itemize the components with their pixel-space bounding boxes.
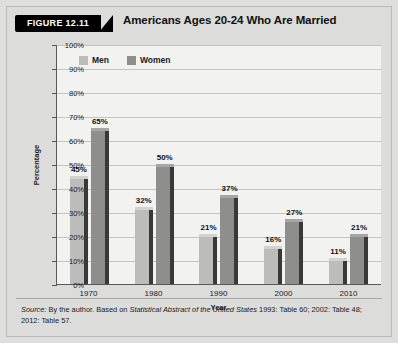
bar-front-face (135, 210, 149, 284)
bar-front-face (264, 249, 278, 284)
source-note: Source: By the author. Based on Statisti… (21, 305, 377, 326)
bar-side-face (84, 179, 88, 284)
bar-group: 21%37% (187, 45, 252, 284)
bar-side-face (278, 249, 282, 284)
bar-rect (264, 246, 282, 284)
bar-value-label: 11% (330, 247, 346, 256)
bar-side-face (105, 131, 109, 284)
bar-side-face (364, 237, 368, 284)
gridline (57, 285, 381, 286)
bar-women-2000[interactable]: 27% (285, 219, 303, 284)
source-prefix: Source: (21, 305, 46, 314)
chart-area: Percentage Men Women 45%65%32%50%21%37%1… (56, 45, 381, 285)
bar-group: 16%27% (251, 45, 316, 284)
bar-value-label: 37% (221, 184, 237, 193)
bar-group: 32%50% (122, 45, 187, 284)
bar-value-label: 50% (157, 153, 173, 162)
bar-rect (220, 195, 238, 284)
bar-front-face (220, 198, 234, 284)
bar-value-label: 27% (286, 208, 302, 217)
y-axis-title: Percentage (32, 145, 41, 185)
bar-front-face (156, 167, 170, 284)
figure-container: FIGURE 12.11 Americans Ages 20-24 Who Ar… (6, 6, 392, 337)
y-axis-tick-label: 40% (69, 185, 84, 194)
x-axis-labels: 19701980199020002010 (56, 289, 381, 298)
bar-women-1980[interactable]: 50% (156, 164, 174, 284)
bar-rect (350, 234, 368, 284)
plot-area: Men Women 45%65%32%50%21%37%16%27%11%21% (56, 45, 381, 285)
y-axis-tick-label: 70% (69, 113, 84, 122)
y-axis-labels: 100%90%80%70%60%50%40%30%20%10%0% (48, 45, 84, 285)
bar-women-1990[interactable]: 37% (220, 195, 238, 284)
y-axis-tick-label: 80% (69, 89, 84, 98)
y-axis-tick-label: 100% (65, 41, 84, 50)
bar-women-2010[interactable]: 21% (350, 234, 368, 284)
bar-value-label: 21% (351, 223, 367, 232)
y-axis-tick (52, 285, 57, 286)
bar-rect (329, 258, 347, 284)
bar-rect (285, 219, 303, 284)
bar-value-label: 65% (92, 117, 108, 126)
source-text-1: By the author. Based on (46, 305, 129, 314)
y-axis-tick-label: 10% (69, 257, 84, 266)
bar-men-2010[interactable]: 11% (329, 258, 347, 284)
bar-men-2000[interactable]: 16% (264, 246, 282, 284)
figure-badge-slant (99, 15, 113, 32)
bar-value-label: 16% (265, 235, 281, 244)
figure-header: FIGURE 12.11 Americans Ages 20-24 Who Ar… (7, 13, 391, 37)
bar-side-face (299, 222, 303, 284)
x-axis-tick-label: 1980 (121, 289, 186, 298)
bar-side-face (170, 167, 174, 284)
bar-rect (199, 234, 217, 284)
bar-rect (156, 164, 174, 284)
bar-front-face (350, 237, 364, 284)
x-axis-tick-label: 1970 (56, 289, 121, 298)
x-axis-tick-label: 2000 (251, 289, 316, 298)
bar-men-1990[interactable]: 21% (199, 234, 217, 284)
y-axis-tick-label: 90% (69, 65, 84, 74)
bar-front-face (91, 131, 105, 284)
bar-front-face (329, 261, 343, 284)
bar-men-1980[interactable]: 32% (135, 207, 153, 284)
y-axis-tick-label: 60% (69, 137, 84, 146)
x-axis-tick-label: 1990 (186, 289, 251, 298)
y-axis-tick-label: 30% (69, 209, 84, 218)
bar-side-face (234, 198, 238, 284)
source-publication: Statistical Abstract of the United State… (129, 305, 256, 314)
bar-groups: 45%65%32%50%21%37%16%27%11%21% (57, 45, 381, 284)
figure-number-badge: FIGURE 12.11 (15, 15, 101, 32)
bar-front-face (199, 237, 213, 284)
bar-group: 11%21% (316, 45, 381, 284)
bar-value-label: 21% (200, 223, 216, 232)
bar-front-face (285, 222, 299, 284)
bar-rect (91, 128, 109, 284)
bar-side-face (213, 237, 217, 284)
y-axis-tick-label: 20% (69, 233, 84, 242)
bar-value-label: 32% (136, 196, 152, 205)
bar-women-1970[interactable]: 65% (91, 128, 109, 284)
x-axis-tick-label: 2010 (316, 289, 381, 298)
bar-side-face (149, 210, 153, 284)
y-axis-tick-label: 50% (69, 161, 84, 170)
bar-rect (135, 207, 153, 284)
source-divider (16, 298, 382, 299)
bar-side-face (343, 261, 347, 284)
figure-title: Americans Ages 20-24 Who Are Married (123, 14, 337, 26)
